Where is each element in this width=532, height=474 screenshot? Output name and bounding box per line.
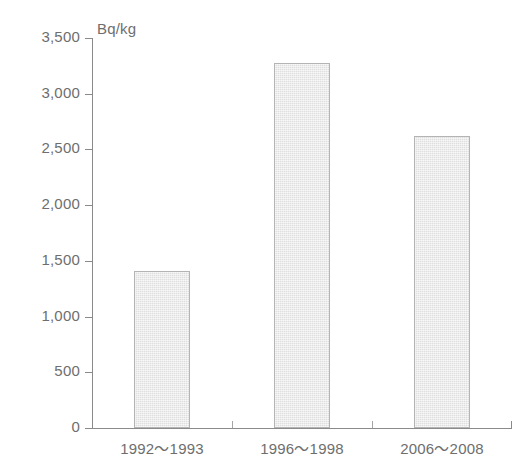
bar-chart: Bq/kg 05001,0001,5002,0002,5003,0003,500…	[0, 0, 532, 474]
y-axis-tick-label: 3,000	[2, 84, 80, 101]
y-axis-tick	[85, 94, 92, 95]
y-axis-tick-label: 2,000	[2, 195, 80, 212]
y-axis-line	[92, 38, 93, 429]
x-axis-tick	[232, 421, 233, 428]
y-axis-unit-label: Bq/kg	[97, 20, 136, 37]
x-axis-tick	[372, 421, 373, 428]
x-axis-category-label: 2006～2008	[400, 437, 484, 458]
y-axis-tick-label: 1,500	[2, 251, 80, 268]
y-axis-tick	[85, 205, 92, 206]
y-axis-tick	[85, 149, 92, 150]
x-axis-category-label: 1992～1993	[120, 437, 204, 458]
y-axis-tick	[85, 261, 92, 262]
y-axis-tick	[85, 38, 92, 39]
x-axis-category-label: 1996～1998	[260, 437, 344, 458]
y-axis-tick	[85, 372, 92, 373]
y-axis-tick-label: 0	[2, 418, 80, 435]
y-axis-tick-label: 3,500	[2, 28, 80, 45]
y-axis-tick	[85, 317, 92, 318]
bar	[134, 271, 190, 428]
x-axis-line	[92, 428, 512, 429]
y-axis-tick-label: 500	[2, 362, 80, 379]
bar	[274, 63, 330, 428]
y-axis-tick	[85, 428, 92, 429]
y-axis-tick-label: 1,000	[2, 307, 80, 324]
bar	[414, 136, 470, 428]
x-axis-end-tick	[511, 421, 512, 429]
y-axis-tick-label: 2,500	[2, 139, 80, 156]
